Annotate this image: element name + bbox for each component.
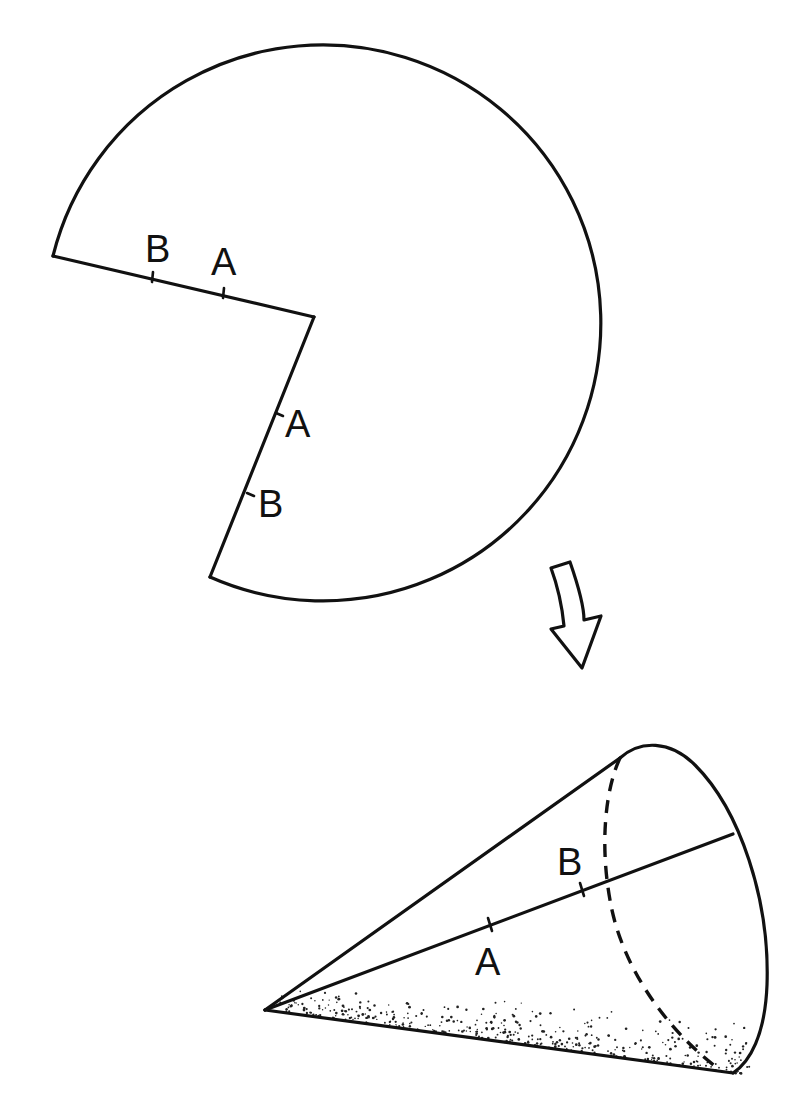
cone-base-rim-hidden: [605, 758, 720, 1070]
diagram-canvas: B A A B B A: [0, 0, 810, 1116]
label-b-side-edge: B: [258, 483, 283, 525]
tick-mark-b-side: [247, 493, 254, 496]
sector-cut-edge-side: [210, 317, 314, 577]
cone-seam-line: [265, 834, 733, 1010]
cone-figure: B A: [265, 745, 767, 1074]
transform-arrow-icon: [551, 562, 601, 668]
label-a-side-edge: A: [285, 403, 311, 445]
tick-mark-a-side: [276, 413, 283, 416]
label-a-cone: A: [475, 941, 501, 983]
label-b-top-edge: B: [145, 228, 170, 270]
label-b-cone: B: [557, 841, 582, 883]
cone-upper-edge: [265, 758, 620, 1010]
sector-outer-arc: [53, 45, 601, 601]
cone-lower-edge: [265, 1010, 733, 1073]
tick-mark-a-top: [223, 288, 224, 298]
arrow-down-icon: [551, 562, 601, 668]
sector-cut-edge-top: [53, 256, 314, 317]
flat-sector-sheet: B A A B: [53, 45, 601, 601]
label-a-top-edge: A: [211, 241, 237, 283]
tick-mark-b-top: [152, 272, 153, 282]
cone-base-rim-visible: [620, 745, 767, 1073]
